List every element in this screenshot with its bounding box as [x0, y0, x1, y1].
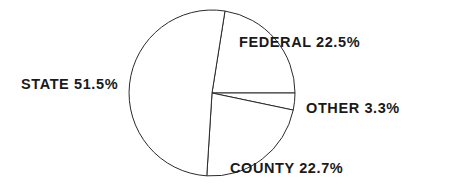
pie-slice-federal — [212, 11, 295, 93]
label-county: COUNTY 22.7% — [230, 160, 343, 176]
label-state: STATE 51.5% — [21, 76, 118, 92]
pie-chart: FEDERAL 22.5% OTHER 3.3% COUNTY 22.7% ST… — [0, 0, 460, 188]
label-federal: FEDERAL 22.5% — [239, 34, 360, 50]
label-other: OTHER 3.3% — [306, 100, 400, 116]
